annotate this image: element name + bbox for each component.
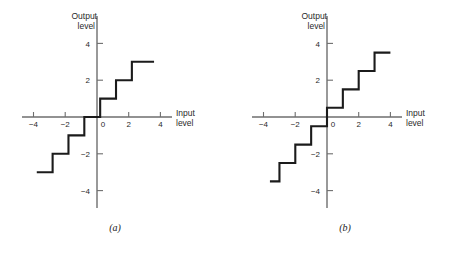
x-ticklabel--2-a: −2 — [61, 120, 71, 129]
y-ticklabel-4-a: 4 — [86, 40, 91, 49]
x-ticklabel--2-b: −2 — [291, 120, 301, 129]
y-axis-label-line2-b: level — [308, 21, 326, 31]
x-ticklabel-4-a: 4 — [158, 120, 163, 129]
x-ticklabel--4-b: −4 — [259, 120, 269, 129]
panel-b: −4 −2 0 2 4 4 2 −2 −4 Output level Input… — [230, 0, 460, 256]
chart-b-svg: −4 −2 0 2 4 4 2 −2 −4 Output level Input… — [230, 0, 460, 220]
x-ticklabel--4-a: −4 — [29, 120, 39, 129]
y-ticklabel-2-b: 2 — [316, 76, 321, 85]
chart-a-svg: −4 −2 0 2 4 4 2 −2 −4 Output level Input… — [0, 0, 230, 220]
chart-b: −4 −2 0 2 4 4 2 −2 −4 Output level Input… — [230, 0, 460, 220]
x-axis-label-line1-b: Input — [406, 108, 426, 118]
y-axis-label-line1-a: Output — [71, 11, 97, 21]
y-ticklabel-4-b: 4 — [316, 40, 321, 49]
y-axis-label-line1-b: Output — [301, 11, 327, 21]
y-ticklabel-2-a: 2 — [86, 76, 91, 85]
panel-a: −4 −2 0 2 4 4 2 −2 −4 Output level Input… — [0, 0, 230, 256]
panel-caption-a: (a) — [0, 222, 230, 233]
y-ticklabel--2-b: −2 — [311, 150, 321, 159]
y-ticklabel--2-a: −2 — [81, 150, 91, 159]
x-ticklabel-4-b: 4 — [388, 120, 393, 129]
x-axis-label-line2-a: level — [176, 118, 194, 128]
quantizer-characteristics-figure: −4 −2 0 2 4 4 2 −2 −4 Output level Input… — [0, 0, 460, 256]
y-ticklabel--4-b: −4 — [311, 187, 321, 196]
x-ticklabel-2-a: 2 — [126, 120, 131, 129]
x-ticklabel-0-a: 0 — [101, 120, 106, 129]
panel-caption-b: (b) — [230, 222, 460, 233]
x-axis-label-line1-a: Input — [176, 108, 196, 118]
x-axis-label-line2-b: level — [406, 118, 424, 128]
chart-a: −4 −2 0 2 4 4 2 −2 −4 Output level Input… — [0, 0, 230, 220]
y-ticklabel--4-a: −4 — [81, 187, 91, 196]
y-axis-label-line2-a: level — [78, 21, 96, 31]
x-ticklabel-2-b: 2 — [356, 120, 361, 129]
x-ticklabel-0-b: 0 — [331, 120, 336, 129]
